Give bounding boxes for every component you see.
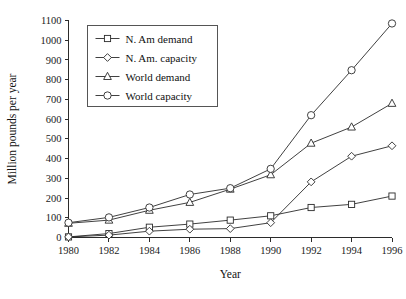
x-axis-tick-label: 1982 (98, 245, 119, 256)
data-point-square-marker (104, 35, 110, 41)
y-axis-title: Million pounds per year (6, 73, 19, 184)
x-axis-tick-label: 1980 (58, 245, 79, 256)
y-axis-tick-label: 600 (46, 114, 62, 125)
legend-label: N. Am demand (126, 33, 193, 45)
x-axis-tick-label: 1984 (139, 245, 161, 256)
y-axis-tick-label: 500 (46, 133, 62, 144)
data-point-square-marker (268, 213, 274, 219)
data-point-circle-marker (388, 20, 395, 27)
x-axis-tick-label: 1994 (341, 245, 363, 256)
data-point-square-marker (308, 204, 314, 210)
y-axis-tick-label: 300 (46, 173, 62, 184)
x-axis-tick-label: 1996 (382, 245, 403, 256)
legend-label: World capacity (126, 90, 193, 102)
data-point-circle-marker (105, 214, 112, 221)
data-point-circle-marker (307, 112, 314, 119)
data-point-circle-marker (104, 92, 111, 99)
data-point-square-marker (389, 193, 395, 199)
y-axis-tick-label: 1000 (41, 35, 62, 46)
chart-container: 010020030040050060070080090010001100 198… (0, 0, 406, 299)
data-point-square-marker (227, 217, 233, 223)
y-axis-tick-label: 100 (46, 212, 62, 223)
x-axis-tick-label: 1990 (260, 245, 281, 256)
x-axis-title: Year (220, 268, 241, 280)
data-point-circle-marker (186, 191, 193, 198)
data-point-circle-marker (65, 219, 72, 226)
x-axis-tick-label: 1988 (220, 245, 241, 256)
y-axis-tick-label: 200 (46, 193, 62, 204)
chart-legend: N. Am demandN. Am. capacityWorld demandW… (88, 26, 218, 107)
data-point-square-marker (348, 201, 354, 207)
data-point-circle-marker (146, 204, 153, 211)
y-axis-tick-label: 900 (46, 55, 62, 66)
y-axis-tick-label: 400 (46, 153, 62, 164)
x-axis-tick-label: 1992 (301, 245, 322, 256)
y-axis-tick-label: 800 (46, 74, 62, 85)
y-axis-tick-label: 1100 (41, 15, 62, 26)
x-axis-tick-label: 1986 (179, 245, 200, 256)
legend-label: N. Am. capacity (126, 52, 198, 64)
line-chart: 010020030040050060070080090010001100 198… (0, 0, 406, 299)
y-axis-tick-label: 700 (46, 94, 62, 105)
data-point-circle-marker (348, 67, 355, 74)
legend-label: World demand (126, 71, 191, 83)
data-point-circle-marker (227, 185, 234, 192)
data-point-circle-marker (267, 165, 274, 172)
y-axis-tick-label: 0 (56, 232, 61, 243)
